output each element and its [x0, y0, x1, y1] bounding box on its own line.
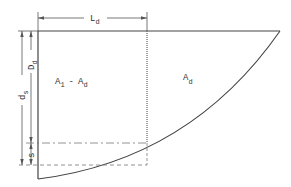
svg-text:ds: ds	[18, 90, 30, 100]
dd-arrow-up-icon	[29, 31, 32, 37]
svg-text:Ld: Ld	[90, 14, 100, 26]
arrow-left-icon	[38, 16, 44, 19]
svg-text:Ad: Ad	[183, 73, 193, 86]
arrow-right-icon	[141, 16, 147, 19]
profile-curve	[38, 31, 280, 179]
ds-arrow-down-icon	[20, 159, 23, 165]
ds-arrow-up-icon	[20, 31, 23, 37]
dd-arrow-down-icon	[29, 137, 32, 143]
svg-text:Dd: Dd	[27, 60, 39, 70]
diagram-canvas: Ld ds Dd s A1-Ad Ad	[0, 0, 291, 187]
s-label: s	[27, 153, 37, 158]
svg-text:A1-Ad: A1-Ad	[55, 77, 88, 89]
